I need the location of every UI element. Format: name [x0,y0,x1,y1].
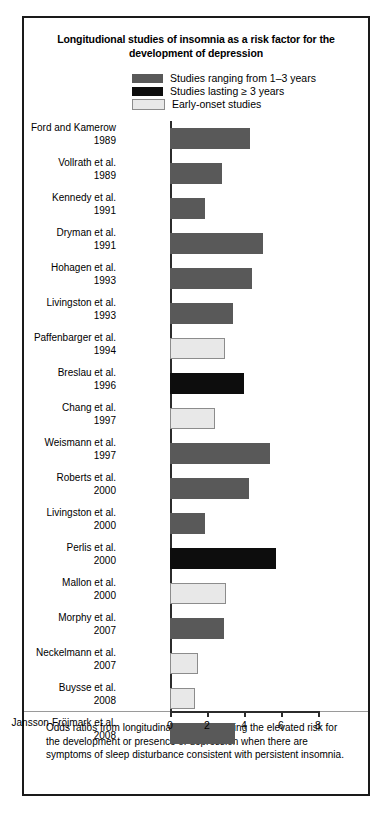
bar-label-year: 2000 [0,519,116,532]
bar-row: Chang et al.1997 [24,401,368,436]
bars-container: Ford and Kamerow1989Vollrath et al.1989K… [24,121,368,751]
legend-swatch-early_onset [132,99,165,110]
legend-swatch-long_term [132,87,163,96]
bar-label-author: Breslau et al. [58,367,116,378]
bar-label-year: 2000 [0,484,116,497]
bar-medium_term [170,478,249,499]
bar-row: Dryman et al.1991 [24,226,368,261]
x-axis-tick [318,711,320,717]
bar-medium_term [170,618,224,639]
x-axis-tick-label: 8 [308,719,328,731]
bar-category-label: Livingston et al.1993 [0,296,116,322]
x-axis-tick-label: 2 [197,719,217,731]
bar-category-label: Hohagen et al.1993 [0,261,116,287]
figure-frame: Longitudional studies of insomnia as a r… [22,16,370,796]
bar-label-author: Paffenbarger et al. [34,332,116,343]
bar-category-label: Ford and Kamerow1989 [0,121,116,147]
legend-item: Studies lasting ≥ 3 years [132,85,368,98]
bar-category-label: Roberts et al.2000 [0,471,116,497]
bar-label-year: 2000 [0,554,116,567]
bar-category-label: Perlis et al.2000 [0,541,116,567]
bar-label-author: Chang et al. [62,402,116,413]
bar-label-year: 1991 [0,239,116,252]
bar-early_onset [170,688,195,709]
bar-category-label: Kennedy et al.1991 [0,191,116,217]
bar-category-label: Dryman et al.1991 [0,226,116,252]
bar-label-author: Kennedy et al. [52,192,116,203]
bar-label-year: 1991 [0,204,116,217]
bar-medium_term [170,233,263,254]
x-axis-tick [170,711,172,717]
legend-label: Early-onset studies [172,98,261,111]
bar-row: Morphy et al.2007 [24,611,368,646]
bar-category-label: Buysse et al.2008 [0,681,116,707]
bar-label-author: Ford and Kamerow [31,122,116,133]
bar-label-year: 1994 [0,344,116,357]
bar-label-author: Roberts et al. [57,472,116,483]
bar-label-year: 2000 [0,589,116,602]
bar-label-author: Neckelmann et al. [36,647,116,658]
bar-row: Breslau et al.1996 [24,366,368,401]
bar-label-author: Livingston et al. [47,297,117,308]
bar-label-year: 1997 [0,449,116,462]
bar-category-label: Breslau et al.1996 [0,366,116,392]
bar-row: Kennedy et al.1991 [24,191,368,226]
bar-label-author: Dryman et al. [57,227,116,238]
bar-category-label: Vollrath et al.1989 [0,156,116,182]
bar-early_onset [170,408,215,429]
bar-medium_term [170,443,270,464]
bar-medium_term [170,303,233,324]
bar-row: Perlis et al.2000 [24,541,368,576]
bar-label-year: 2008 [0,694,116,707]
bar-label-year: 2007 [0,624,116,637]
bar-label-author: Perlis et al. [67,542,116,553]
legend-item: Studies ranging from 1–3 years [132,72,368,85]
bar-early_onset [170,338,225,359]
legend-label: Studies ranging from 1–3 years [170,72,316,85]
bar-early_onset [170,583,226,604]
bar-long_term [170,548,276,569]
plot-area: Ford and Kamerow1989Vollrath et al.1989K… [24,121,368,711]
bar-category-label: Jansson-Fröjmark et al.2008 [0,716,116,742]
bar-label-year: 2008 [0,729,116,742]
x-axis-tick [207,711,209,717]
x-axis-tick-label: 0 [160,719,180,731]
bar-label-author: Jansson-Fröjmark et al. [12,717,116,728]
bar-label-year: 1997 [0,414,116,427]
legend-item: Early-onset studies [132,98,368,111]
bar-medium_term [170,198,205,219]
bar-label-author: Livingston et al. [47,507,117,518]
bar-row: Neckelmann et al.2007 [24,646,368,681]
x-axis-tick [244,711,246,717]
x-axis-tick [281,711,283,717]
bar-row: Hohagen et al.1993 [24,261,368,296]
bar-row: Paffenbarger et al.1994 [24,331,368,366]
bar-row: Livingston et al.2000 [24,506,368,541]
bar-medium_term [170,268,252,289]
bar-early_onset [170,653,198,674]
bar-row: Mallon et al.2000 [24,576,368,611]
bar-category-label: Morphy et al.2007 [0,611,116,637]
bar-category-label: Neckelmann et al.2007 [0,646,116,672]
bar-category-label: Livingston et al.2000 [0,506,116,532]
bar-label-author: Morphy et al. [58,612,116,623]
bar-label-author: Mallon et al. [62,577,116,588]
bar-label-author: Weismann et al. [44,437,116,448]
bar-label-author: Vollrath et al. [58,157,116,168]
legend-swatch-medium_term [132,74,163,83]
bar-category-label: Weismann et al.1997 [0,436,116,462]
bar-label-year: 1993 [0,309,116,322]
bar-label-author: Buysse et al. [59,682,116,693]
bar-medium_term [170,513,205,534]
bar-label-year: 1989 [0,134,116,147]
bar-row: Ford and Kamerow1989 [24,121,368,156]
bar-label-author: Hohagen et al. [51,262,116,273]
bar-long_term [170,373,244,394]
bar-row: Roberts et al.2000 [24,471,368,506]
x-axis-tick-label: 6 [271,719,291,731]
bar-label-year: 1989 [0,169,116,182]
bar-medium_term [170,163,222,184]
bar-category-label: Chang et al.1997 [0,401,116,427]
chart-legend: Studies ranging from 1–3 yearsStudies la… [24,72,368,111]
bar-medium_term [170,128,250,149]
